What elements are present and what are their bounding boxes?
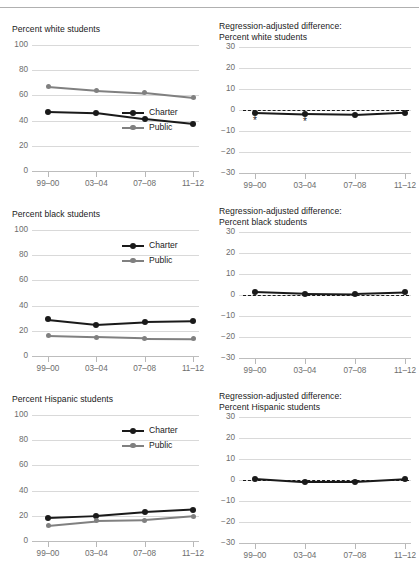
series-segment-black-regression-difference [255, 291, 305, 294]
x-tick-label-hispanic-levels-2: 07–08 [123, 549, 167, 558]
data-point-black-regression-difference-0[interactable] [252, 289, 258, 295]
x-tick-mark-black-levels-2 [145, 357, 146, 362]
data-point-hispanic-regression-difference-2[interactable] [352, 479, 358, 485]
chart-title-black-regression-line1: Regression-adjusted difference: [219, 206, 342, 217]
data-point-white-levels-charter-1[interactable] [93, 110, 99, 116]
data-point-white-levels-public-1[interactable] [94, 88, 99, 93]
significance-marker-white-regression-0: * [249, 118, 261, 124]
series-segment-hispanic-levels-charter [145, 509, 193, 513]
data-point-white-levels-charter-0[interactable] [45, 109, 51, 115]
y-tick-label-black-levels-40: 40 [0, 301, 28, 310]
y-tick-label-white-regression--20: −20 [205, 147, 235, 156]
y-tick-label-white-levels-80: 80 [0, 65, 28, 74]
data-point-hispanic-levels-charter-2[interactable] [142, 509, 148, 515]
y-tick-label-hispanic-regression-30: 30 [205, 412, 235, 421]
y-tick-label-hispanic-regression--30: −30 [205, 538, 235, 547]
chart-title-hispanic-levels: Percent Hispanic students [12, 394, 113, 405]
x-tick-mark-white-regression-1 [305, 174, 306, 179]
data-point-black-levels-public-2[interactable] [142, 336, 147, 341]
data-point-hispanic-regression-difference-3[interactable] [402, 476, 408, 482]
x-tick-mark-hispanic-levels-1 [96, 542, 97, 547]
legend-item-charter[interactable]: Charter [122, 107, 202, 118]
data-point-hispanic-levels-public-0[interactable] [46, 523, 51, 528]
data-point-black-regression-difference-1[interactable] [302, 291, 308, 297]
data-point-hispanic-regression-difference-1[interactable] [302, 479, 308, 485]
gridline-white-regression--20 [239, 152, 411, 153]
zero-reference-line-black-regression [243, 295, 409, 296]
gridline-white-levels-100 [32, 45, 199, 46]
x-tick-mark-hispanic-regression-2 [355, 544, 356, 549]
x-tick-mark-white-regression-0 [255, 174, 256, 179]
x-tick-mark-hispanic-regression-3 [405, 544, 406, 549]
gridline-black-levels-60 [32, 280, 199, 281]
data-point-white-regression-difference-2[interactable] [352, 112, 358, 118]
gridline-white-levels-80 [32, 70, 199, 71]
chart-title-black-regression-line2: Percent black students [219, 217, 307, 228]
series-segment-white-regression-difference [355, 112, 405, 116]
gridline-black-regression-10 [239, 274, 411, 275]
data-point-black-levels-public-1[interactable] [94, 335, 99, 340]
y-tick-label-hispanic-regression-10: 10 [205, 454, 235, 463]
series-segment-hispanic-levels-public [96, 519, 144, 521]
x-tick-label-white-regression-2: 07–08 [333, 181, 377, 190]
data-point-hispanic-regression-difference-0[interactable] [252, 476, 258, 482]
y-tick-label-white-regression-30: 30 [205, 42, 235, 51]
x-tick-mark-white-levels-2 [145, 172, 146, 177]
x-tick-mark-white-levels-3 [193, 172, 194, 177]
data-point-white-regression-difference-3[interactable] [402, 110, 408, 116]
y-tick-label-hispanic-levels-20: 20 [0, 511, 28, 520]
x-tick-mark-hispanic-regression-1 [305, 544, 306, 549]
data-point-hispanic-levels-charter-0[interactable] [45, 515, 51, 521]
x-tick-label-hispanic-regression-2: 07–08 [333, 551, 377, 560]
zero-reference-line-white-regression [243, 110, 409, 111]
data-point-black-levels-charter-2[interactable] [142, 319, 148, 325]
y-tick-label-black-regression-0: 0 [205, 290, 235, 299]
y-tick-label-white-levels-20: 20 [0, 141, 28, 150]
header-divider-rule [0, 7, 419, 8]
y-tick-label-black-regression-20: 20 [205, 248, 235, 257]
y-tick-label-black-levels-80: 80 [0, 250, 28, 259]
legend-marker-public [130, 258, 135, 263]
x-tick-mark-hispanic-levels-2 [145, 542, 146, 547]
x-tick-label-white-levels-2: 07–08 [123, 179, 167, 188]
series-segment-white-levels-public [96, 90, 144, 94]
data-point-black-levels-charter-1[interactable] [93, 322, 99, 328]
y-tick-label-black-levels-100: 100 [0, 225, 28, 234]
data-point-black-regression-difference-2[interactable] [352, 291, 358, 297]
legend-marker-charter [130, 110, 136, 116]
y-tick-label-hispanic-regression--20: −20 [205, 517, 235, 526]
x-tick-mark-black-regression-1 [305, 359, 306, 364]
data-point-black-levels-public-3[interactable] [191, 336, 196, 341]
x-tick-mark-hispanic-levels-3 [193, 542, 194, 547]
series-segment-hispanic-levels-public [48, 520, 96, 526]
data-point-white-levels-public-3[interactable] [191, 95, 196, 100]
gridline-black-regression--30 [239, 358, 411, 359]
legend-item-public[interactable]: Public [122, 122, 202, 133]
x-tick-mark-hispanic-levels-0 [48, 542, 49, 547]
data-point-white-levels-public-0[interactable] [46, 84, 51, 89]
y-tick-label-white-regression--30: −30 [205, 168, 235, 177]
y-tick-label-white-regression-0: 0 [205, 105, 235, 114]
data-point-hispanic-levels-public-2[interactable] [142, 518, 147, 523]
series-segment-hispanic-regression-difference [305, 481, 355, 483]
legend-marker-public [130, 443, 135, 448]
y-tick-label-white-levels-40: 40 [0, 116, 28, 125]
gridline-white-regression--30 [239, 173, 411, 174]
x-tick-label-hispanic-regression-1: 03–04 [283, 551, 327, 560]
series-segment-black-levels-public [48, 335, 96, 338]
legend-item-charter[interactable]: Charter [122, 240, 202, 251]
y-tick-label-black-levels-0: 0 [0, 351, 28, 360]
data-point-black-levels-charter-0[interactable] [45, 316, 51, 322]
legend-item-charter[interactable]: Charter [122, 425, 202, 436]
y-tick-label-white-regression-10: 10 [205, 84, 235, 93]
data-point-hispanic-levels-public-3[interactable] [191, 514, 196, 519]
y-tick-label-black-regression--30: −30 [205, 353, 235, 362]
data-point-hispanic-levels-public-1[interactable] [94, 518, 99, 523]
legend-item-public[interactable]: Public [122, 255, 202, 266]
legend-item-public[interactable]: Public [122, 440, 202, 451]
data-point-black-levels-public-0[interactable] [46, 333, 51, 338]
gridline-white-levels-0 [32, 171, 199, 172]
data-point-hispanic-levels-charter-3[interactable] [190, 507, 196, 513]
data-point-black-levels-charter-3[interactable] [190, 318, 196, 324]
legend-label-charter: Charter [149, 240, 178, 250]
